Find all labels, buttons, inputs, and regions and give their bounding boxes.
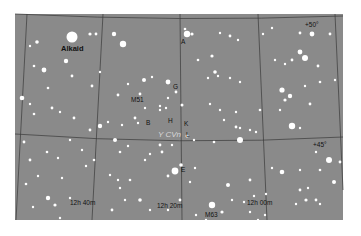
star [39, 221, 41, 223]
star [307, 187, 309, 189]
star [112, 32, 116, 36]
star [167, 209, 169, 211]
star [33, 65, 36, 68]
star [317, 65, 320, 68]
star [219, 32, 221, 34]
label-dec-50: +50° [305, 21, 319, 28]
star [85, 165, 87, 167]
star [35, 40, 39, 44]
star [113, 138, 117, 142]
star [127, 145, 129, 147]
star [295, 203, 297, 205]
star [25, 183, 28, 186]
label-b: B [146, 119, 150, 126]
star [219, 109, 221, 111]
star [127, 83, 129, 85]
star [33, 113, 36, 116]
star [167, 175, 170, 178]
star [237, 39, 239, 41]
star [139, 93, 142, 96]
star [47, 87, 50, 90]
star [119, 187, 121, 189]
star [271, 27, 273, 29]
label-alkaid: Alkaid [61, 44, 84, 53]
star [159, 144, 162, 147]
star [29, 159, 32, 162]
star [304, 198, 307, 201]
star [223, 119, 225, 121]
star [161, 151, 164, 154]
star [99, 71, 101, 73]
star [220, 210, 223, 213]
star [213, 70, 217, 74]
star [81, 149, 83, 151]
star [32, 206, 34, 208]
star [64, 59, 68, 63]
star [29, 103, 31, 105]
star [291, 59, 294, 62]
star [193, 139, 195, 141]
star [255, 131, 257, 133]
star [217, 75, 219, 77]
star [334, 79, 336, 81]
star [283, 98, 286, 101]
star [205, 219, 207, 221]
star [243, 201, 245, 203]
star [149, 209, 151, 211]
star [195, 214, 197, 216]
star [175, 91, 178, 94]
star [310, 32, 315, 37]
star [189, 181, 191, 183]
star [226, 183, 230, 187]
star [67, 32, 78, 43]
star [235, 126, 238, 129]
label-dec-45: +45° [313, 141, 327, 148]
star [119, 151, 122, 154]
star [299, 169, 301, 171]
star [184, 31, 190, 37]
star [91, 85, 94, 88]
star [46, 151, 49, 154]
label-constellation-cvn: Y CVn [158, 130, 182, 139]
star [117, 221, 120, 224]
star [194, 167, 196, 169]
star [95, 33, 98, 36]
star [264, 214, 266, 216]
star [120, 41, 126, 47]
star [179, 199, 182, 202]
star [302, 55, 308, 61]
star [57, 157, 59, 159]
star [93, 159, 96, 162]
label-m51: M51 [131, 96, 144, 103]
star [315, 199, 318, 202]
star [284, 63, 286, 65]
star [239, 127, 241, 129]
label-h: H [168, 117, 173, 124]
label-a: A [181, 38, 186, 45]
star [88, 32, 91, 35]
star [249, 211, 251, 213]
star [61, 177, 63, 179]
star [159, 109, 161, 111]
label-ra-12h40: 12h 40m [70, 199, 95, 206]
star [42, 68, 47, 73]
star [332, 180, 336, 184]
star [20, 96, 25, 101]
star [107, 121, 109, 123]
star [319, 169, 322, 172]
star [117, 179, 119, 181]
star [144, 107, 146, 109]
star [249, 129, 251, 131]
star [149, 153, 151, 155]
label-l: L [186, 131, 190, 138]
label-m63: M63 [205, 211, 218, 218]
star [190, 32, 193, 35]
star-chart: Alkaid A G M51 B H K L Y CVn E M63 +50° … [0, 0, 361, 236]
star [124, 199, 126, 201]
star [299, 127, 301, 129]
star [53, 203, 56, 206]
star [271, 167, 273, 169]
star [213, 141, 216, 144]
star [134, 117, 137, 120]
star [229, 35, 232, 38]
